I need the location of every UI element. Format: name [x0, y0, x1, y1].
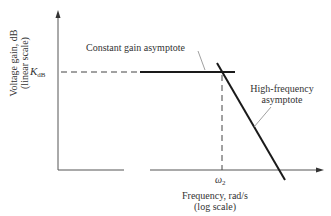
high-frequency-annotation-line1: High-frequency	[242, 83, 322, 94]
x-axis-label-line2: (log scale)	[150, 201, 280, 212]
y-axis-label: Voltage gain, dB (linear scale)	[8, 8, 30, 118]
plot-canvas	[0, 0, 331, 216]
y-axis-label-line1: Voltage gain, dB	[8, 8, 19, 118]
x-axis-label: Frequency, rad/s (log scale)	[150, 190, 280, 212]
high-frequency-annotation-line2: asymptote	[242, 94, 322, 105]
x-axis-arrow-icon	[316, 168, 324, 173]
gain-level-label: KdB	[30, 65, 46, 79]
x-axis-label-line1: Frequency, rad/s	[150, 190, 280, 201]
corner-frequency-label: ω2	[215, 174, 226, 187]
corner-frequency-subscript: 2	[222, 179, 226, 187]
y-axis-label-line2: (linear scale)	[19, 8, 30, 118]
y-axis-arrow-icon	[56, 10, 61, 18]
constant-gain-annotation: Constant gain asymptote	[86, 42, 185, 53]
high-frequency-asymptote	[217, 63, 285, 180]
high-frequency-leader	[254, 107, 271, 127]
constant-gain-leader	[198, 51, 205, 70]
high-frequency-annotation: High-frequency asymptote	[242, 83, 322, 105]
corner-frequency-symbol: ω	[215, 174, 222, 185]
gain-level-subscript: dB	[37, 71, 45, 79]
